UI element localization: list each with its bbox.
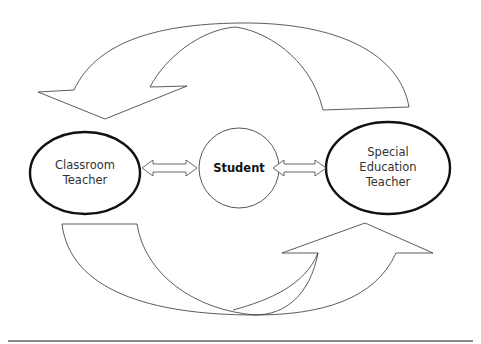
classroom-teacher-label: Classroom Teacher <box>35 158 135 188</box>
bottom-divider <box>8 340 473 342</box>
bottom-curved-arrow-shape <box>62 223 433 315</box>
double-arrow-right <box>273 160 326 176</box>
special-ed-label-line2: Education <box>338 160 438 175</box>
student-label: Student <box>199 161 279 176</box>
top-curved-arrow-shape <box>38 23 409 119</box>
special-ed-label-line3: Teacher <box>338 175 438 190</box>
special-ed-label-line1: Special <box>338 145 438 160</box>
classroom-teacher-label-line2: Teacher <box>35 173 135 188</box>
classroom-teacher-label-line1: Classroom <box>35 158 135 173</box>
double-arrow-left <box>142 160 197 176</box>
special-education-teacher-label: Special Education Teacher <box>338 145 438 190</box>
